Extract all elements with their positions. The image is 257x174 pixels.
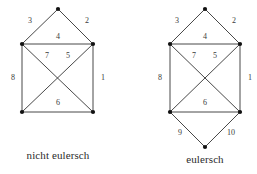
- graph-vertex-top-apex: [203, 7, 207, 11]
- graph-vertex-lower-left: [20, 110, 24, 114]
- edge-label: 3: [28, 16, 32, 25]
- graph-vertex-upper-left: [20, 42, 24, 46]
- edge-label: 2: [85, 16, 89, 25]
- graph-vertex-top-apex: [56, 7, 60, 11]
- graph-vertex-bottom-apex: [203, 145, 207, 149]
- right-graph-caption: eulersch: [186, 153, 224, 165]
- edge-label: 6: [56, 98, 60, 107]
- edge-label: 7: [45, 51, 49, 60]
- graph-vertex-upper-right: [91, 42, 95, 46]
- edge-label: 6: [203, 98, 207, 107]
- graph-vertex-lower-right: [238, 110, 242, 114]
- edge-label: 5: [66, 51, 70, 60]
- edge-label: 4: [203, 32, 207, 41]
- left-graph-caption: nicht eulersch: [27, 149, 90, 161]
- graph-edge: [170, 112, 205, 147]
- graph-vertex-upper-left: [168, 42, 172, 46]
- graph-vertex-upper-right: [238, 42, 242, 46]
- edge-label: 2: [232, 16, 236, 25]
- edge-label: 3: [175, 16, 179, 25]
- graphs-root: 12345678nicht eulersch12345678910eulersc…: [11, 7, 252, 165]
- edge-label: 4: [56, 32, 60, 41]
- graph-vertex-lower-right: [91, 110, 95, 114]
- left-graph-edge-labels: 12345678: [11, 16, 105, 107]
- right-graph-edges: [170, 9, 240, 147]
- edge-label: 8: [158, 73, 162, 82]
- graph-edge: [22, 9, 58, 44]
- graph-vertex-lower-left: [168, 110, 172, 114]
- graph-canvas: 12345678nicht eulersch12345678910eulersc…: [0, 0, 257, 174]
- right-graph-edge-labels: 12345678910: [158, 16, 252, 137]
- graph-edge: [170, 9, 205, 44]
- left-graph: 12345678nicht eulersch: [11, 7, 105, 161]
- edge-label: 10: [227, 128, 235, 137]
- left-graph-edges: [22, 9, 93, 112]
- euler-graph-figure: 12345678nicht eulersch12345678910eulersc…: [0, 0, 257, 174]
- edge-label: 9: [178, 128, 182, 137]
- edge-label: 8: [11, 73, 15, 82]
- edge-label: 5: [213, 51, 217, 60]
- edge-label: 1: [101, 73, 105, 82]
- graph-edge: [205, 9, 240, 44]
- right-graph: 12345678910eulersch: [158, 7, 252, 165]
- edge-label: 1: [248, 73, 252, 82]
- graph-edge: [58, 9, 93, 44]
- edge-label: 7: [192, 51, 196, 60]
